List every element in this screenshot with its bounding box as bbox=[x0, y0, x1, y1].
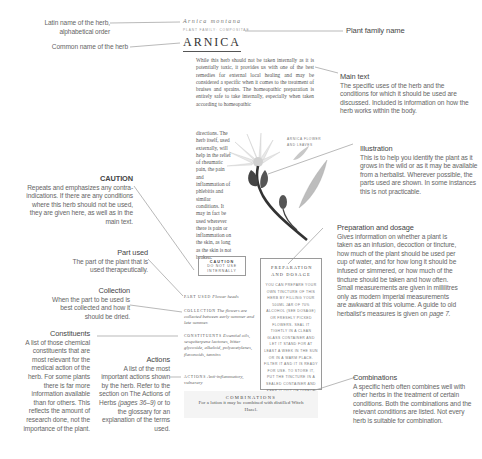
combinations-text: For a lotion it may be combined with dis… bbox=[184, 400, 318, 414]
annotation-family-name: Plant family name bbox=[346, 27, 456, 36]
preparation-box: Preparation and Dosage You can prepare y… bbox=[260, 258, 322, 390]
preparation-title: Preparation and Dosage bbox=[271, 264, 311, 278]
common-name-heading: Arnica bbox=[183, 35, 241, 52]
annotation-illustration: Illustration This is to help you identif… bbox=[360, 145, 478, 197]
latin-name: Arnica montana bbox=[183, 18, 241, 24]
annotation-main-text: Main text The specific uses of the herb … bbox=[340, 73, 470, 116]
illustration-caption: ARNICA FLOWERAND LEAVES bbox=[287, 137, 321, 147]
preparation-text: You can prepare your own tincture of thi… bbox=[261, 282, 321, 401]
annotation-actions: Actions A list of the most important act… bbox=[98, 356, 170, 433]
annotation-constituents: Constituents A list of those chemical co… bbox=[22, 330, 90, 433]
arnica-illustration: ARNICA FLOWERAND LEAVES bbox=[225, 130, 335, 248]
caution-box: Caution Do not use internally bbox=[198, 256, 246, 276]
constituents-section: Constituents Essential oils, sesquiterpe… bbox=[184, 333, 260, 358]
combinations-box: Combinations For a lotion it may be comb… bbox=[184, 391, 318, 418]
annotation-combinations: Combinations A specific herb often combi… bbox=[353, 374, 475, 426]
annotation-preparation: Preparation and dosage Gives information… bbox=[337, 224, 459, 319]
collection-section: Collection The flowers are collected bet… bbox=[184, 308, 260, 327]
annotation-part-used: Part used The part of the plant that is … bbox=[60, 249, 148, 275]
actions-section: Actions Anti-inflammatory, vulnerary bbox=[184, 374, 260, 386]
annotation-common-name: Common name of the herb bbox=[20, 43, 128, 52]
part-used-section: Part used Flower heads bbox=[184, 294, 260, 300]
plant-family: plant family: Compositae bbox=[183, 28, 249, 32]
annotation-caution: CAUTION Repeats and emphasizes any contr… bbox=[20, 175, 133, 227]
annotation-latin-name: Latin name of the herb, alphabetical ord… bbox=[20, 19, 110, 36]
main-text-wide: While this herb should not be taken inte… bbox=[196, 57, 314, 108]
annotation-collection: Collection When the part to be used is b… bbox=[44, 287, 130, 321]
caution-text: Do not use internally bbox=[199, 264, 245, 274]
